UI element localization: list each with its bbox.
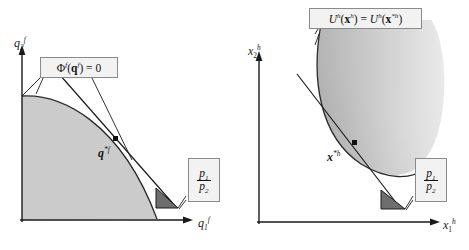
price-ratio-fraction: p1 p2 — [424, 168, 437, 192]
y-axis-label-consumer: x2h — [248, 44, 261, 59]
utility-equation-text: Uh(xh) = Uh(x*h) — [329, 13, 403, 25]
price-ratio-denominator: p2 — [197, 180, 210, 193]
price-leader-1 — [405, 196, 413, 209]
producer-plot — [0, 0, 235, 250]
x-axis-label-producer: q1f — [198, 216, 210, 231]
optimum-point-marker — [113, 136, 118, 141]
price-ratio-fraction: p1 p2 — [197, 168, 210, 192]
price-ratio-triangle — [381, 190, 405, 209]
optimum-point-marker — [352, 140, 357, 145]
panel-producer: q2f q1f Φf(qf) = 0 q*f p1 p2 — [0, 0, 235, 250]
optimum-label-producer: q*f — [98, 146, 110, 161]
y-axis-label-producer: q2f — [14, 36, 26, 51]
production-possibility-set — [22, 96, 157, 220]
panel-consumer: x2h x1h Uh(xh) = Uh(x*h) x*h p1 p2 — [235, 0, 469, 250]
utility-equation-box: Uh(xh) = Uh(x*h) — [309, 8, 422, 29]
price-ratio-numerator: p1 — [424, 168, 437, 180]
phi-leader-1 — [22, 76, 42, 96]
price-ratio-triangle — [156, 188, 178, 208]
price-ratio-denominator: p2 — [424, 180, 437, 193]
consumer-plot — [235, 0, 469, 250]
x-axis-label-consumer: x1h — [443, 218, 456, 233]
x-axis-arrow — [430, 219, 440, 226]
price-ratio-numerator: p1 — [197, 168, 210, 180]
frontier-equation-text: Φf(qf) = 0 — [57, 62, 101, 74]
optimum-label-consumer: x*h — [327, 150, 340, 165]
frontier-equation-box: Φf(qf) = 0 — [40, 57, 118, 78]
price-ratio-box-consumer: p1 p2 — [415, 158, 447, 202]
figure-canvas: q2f q1f Φf(qf) = 0 q*f p1 p2 — [0, 0, 469, 250]
price-ratio-box-producer: p1 p2 — [188, 158, 220, 202]
phi-leader-2 — [36, 76, 44, 94]
x-axis-arrow — [183, 217, 193, 224]
